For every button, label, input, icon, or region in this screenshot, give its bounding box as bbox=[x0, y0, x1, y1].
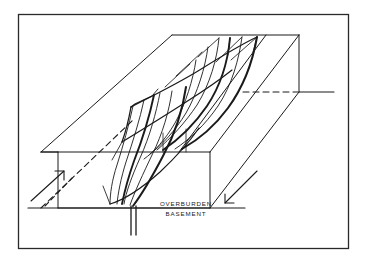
canvas-background bbox=[0, 0, 365, 263]
block-diagram-svg: OVERBURDEN BASEMENT bbox=[0, 0, 365, 263]
label-overburden: OVERBURDEN bbox=[160, 200, 212, 207]
label-basement: BASEMENT bbox=[166, 210, 207, 217]
figure-root: OVERBURDEN BASEMENT bbox=[0, 0, 365, 263]
